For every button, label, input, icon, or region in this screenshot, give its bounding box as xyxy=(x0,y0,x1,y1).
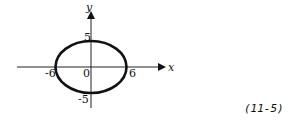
equation-number: (11-5) xyxy=(244,102,284,115)
tick-x-neg: -6 xyxy=(45,67,56,80)
y-axis-label: y xyxy=(85,1,93,14)
ellipse-diagram: y x 5 -5 -6 6 0 (11-5) xyxy=(0,0,297,121)
tick-y-pos: 5 xyxy=(84,31,91,44)
tick-x-pos: 6 xyxy=(129,67,136,80)
tick-origin: 0 xyxy=(83,67,90,80)
tick-y-neg: -5 xyxy=(78,93,89,106)
x-axis-label: x xyxy=(168,61,175,74)
